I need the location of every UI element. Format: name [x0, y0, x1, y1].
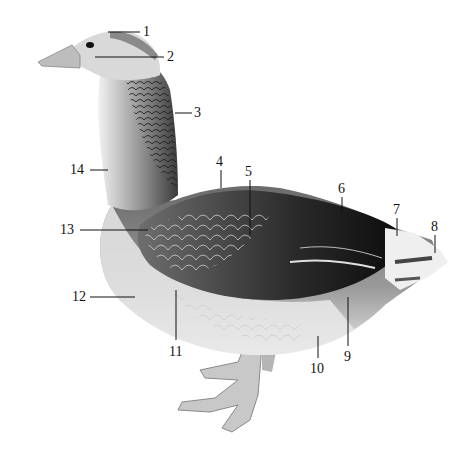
tail — [385, 228, 448, 290]
label-6: 6 — [338, 182, 345, 196]
label-3: 3 — [194, 106, 201, 120]
label-2: 2 — [167, 50, 174, 64]
foot — [178, 345, 276, 432]
beak — [38, 45, 80, 68]
label-11: 11 — [169, 345, 182, 359]
label-5: 5 — [245, 165, 252, 179]
label-7: 7 — [393, 203, 400, 217]
label-10: 10 — [310, 362, 324, 376]
label-13: 13 — [60, 223, 74, 237]
head — [38, 31, 160, 80]
label-14: 14 — [70, 163, 84, 177]
label-12: 12 — [72, 290, 86, 304]
label-9: 9 — [344, 350, 351, 364]
label-4: 4 — [216, 155, 223, 169]
label-8: 8 — [431, 220, 438, 234]
label-1: 1 — [143, 25, 150, 39]
eye — [86, 42, 94, 48]
